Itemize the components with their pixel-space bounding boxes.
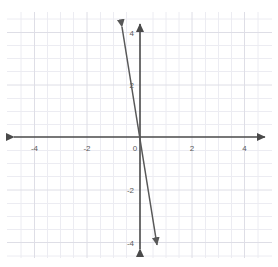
x-tick-label-pos4: 4	[242, 144, 247, 153]
graph-canvas: -4 -2 0 2 4 4 2 -2 -4	[0, 0, 278, 267]
y-tick-label-pos4: 4	[130, 29, 135, 38]
x-tick-label-pos2: 2	[190, 144, 195, 153]
x-tick-label-neg4: -4	[31, 144, 39, 153]
y-tick-label-neg2: -2	[127, 186, 135, 195]
y-tick-label-neg4: -4	[127, 239, 135, 248]
coordinate-plane-graph: -4 -2 0 2 4 4 2 -2 -4	[0, 0, 278, 267]
x-tick-label-zero: 0	[133, 144, 138, 153]
y-tick-label-pos2: 2	[130, 81, 135, 90]
x-tick-label-neg2: -2	[83, 144, 91, 153]
